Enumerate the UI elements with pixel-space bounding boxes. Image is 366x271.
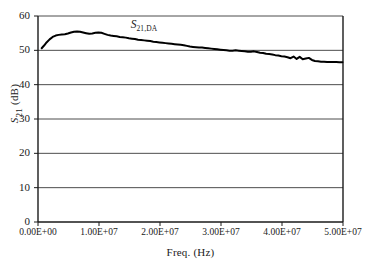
- x-tick-label: 5.00E+07: [308, 227, 366, 237]
- x-tick-label: 4.00E+07: [247, 227, 317, 237]
- gridlines: [38, 16, 343, 188]
- y-tick-label: 20: [0, 147, 30, 158]
- y-tick-label: 30: [0, 113, 30, 124]
- y-tick-label: 60: [0, 10, 30, 21]
- y-tick-label: 50: [0, 44, 30, 55]
- x-tick-label: 1.00E+07: [64, 227, 134, 237]
- chart-figure: S21 (dB) Freq. (Hz) 0102030405060 0.00E+…: [0, 0, 366, 271]
- x-tick-label: 2.00E+07: [125, 227, 195, 237]
- x-tick-label: 3.00E+07: [186, 227, 256, 237]
- y-tick-label: 40: [0, 79, 30, 90]
- x-tick-label: 0.00E+00: [3, 227, 73, 237]
- series-lines: [42, 31, 343, 62]
- series-label-subscript: 21,DA: [137, 24, 158, 33]
- series-line: [42, 31, 343, 62]
- axis-ticks: [34, 16, 343, 226]
- y-tick-label: 0: [0, 216, 30, 227]
- series-label: S21,DA: [131, 18, 157, 33]
- y-tick-label: 10: [0, 182, 30, 193]
- x-axis-title: Freq. (Hz): [38, 246, 343, 258]
